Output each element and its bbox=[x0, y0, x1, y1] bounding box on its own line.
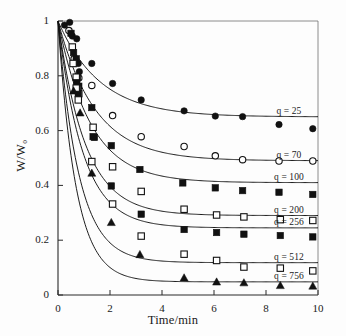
marker-open-square bbox=[213, 257, 219, 263]
x-tick-label: 10 bbox=[288, 302, 346, 314]
marker-open-circle bbox=[109, 112, 115, 118]
marker-filled-triangle bbox=[136, 250, 144, 257]
chart-plot-area bbox=[0, 0, 346, 336]
marker-open-square bbox=[213, 212, 219, 218]
marker-open-circle bbox=[212, 153, 218, 159]
marker-open-circle bbox=[138, 133, 144, 139]
marker-open-square bbox=[90, 124, 96, 130]
marker-filled-circle bbox=[89, 60, 95, 66]
marker-open-square bbox=[181, 251, 187, 257]
marker-filled-square bbox=[180, 180, 186, 186]
marker-open-square bbox=[109, 201, 115, 207]
x-tick-label: 6 bbox=[184, 302, 244, 314]
marker-filled-triangle bbox=[76, 109, 84, 116]
x-tick-label: 0 bbox=[28, 302, 88, 314]
marker-filled-circle bbox=[138, 97, 144, 103]
y-tick-label: 0.8 bbox=[0, 69, 49, 81]
marker-filled-triangle bbox=[309, 282, 317, 289]
marker-filled-circle bbox=[276, 121, 282, 127]
marker-filled-square bbox=[90, 133, 96, 139]
series-label-q-200: q = 200 bbox=[260, 205, 318, 215]
marker-filled-square bbox=[108, 183, 114, 189]
x-axis-title: Time/min bbox=[0, 313, 346, 328]
marker-filled-square bbox=[213, 229, 219, 235]
marker-open-square bbox=[241, 214, 247, 220]
marker-filled-square bbox=[68, 30, 74, 36]
marker-filled-circle bbox=[109, 80, 115, 86]
marker-open-square bbox=[70, 60, 76, 66]
y-tick-label: 0.6 bbox=[0, 124, 49, 136]
marker-open-circle bbox=[181, 143, 187, 149]
y-tick-label: 0.2 bbox=[0, 233, 49, 245]
marker-open-square bbox=[75, 97, 81, 103]
marker-open-circle bbox=[239, 156, 245, 162]
marker-open-square bbox=[138, 188, 144, 194]
marker-filled-square bbox=[310, 191, 316, 197]
marker-filled-square bbox=[181, 226, 187, 232]
marker-filled-circle bbox=[67, 19, 73, 25]
marker-filled-square bbox=[89, 104, 95, 110]
fit-curve-0 bbox=[58, 21, 318, 117]
series-label-q-256: q = 256 bbox=[260, 217, 318, 227]
marker-filled-circle bbox=[212, 113, 218, 119]
marker-open-square bbox=[109, 164, 115, 170]
marker-open-circle bbox=[89, 82, 95, 88]
marker-open-square bbox=[138, 233, 144, 239]
marker-filled-triangle bbox=[107, 218, 115, 225]
marker-filled-circle bbox=[181, 108, 187, 114]
y-tick-label: 0 bbox=[0, 288, 49, 300]
marker-filled-square bbox=[277, 232, 283, 238]
x-tick-label: 8 bbox=[236, 302, 296, 314]
series-label-q-512: q = 512 bbox=[260, 252, 318, 262]
series-label-q-25: q = 25 bbox=[260, 106, 318, 116]
y-tick-label: 1 bbox=[0, 14, 49, 26]
marker-filled-square bbox=[138, 211, 144, 217]
series-label-q-756: q = 756 bbox=[260, 271, 318, 281]
fit-curve-3 bbox=[58, 21, 318, 216]
marker-filled-circle bbox=[239, 113, 245, 119]
marker-open-square bbox=[181, 206, 187, 212]
marker-open-square bbox=[241, 264, 247, 270]
x-tick-label: 4 bbox=[132, 302, 192, 314]
x-tick-label: 2 bbox=[80, 302, 140, 314]
marker-filled-circle bbox=[310, 125, 316, 131]
series-label-q-100: q = 100 bbox=[260, 172, 318, 182]
figure-container: Time/min W/W₀ 024681000.20.40.60.81 q = … bbox=[0, 0, 346, 336]
y-tick-label: 0.4 bbox=[0, 178, 49, 190]
marker-filled-square bbox=[108, 142, 114, 148]
marker-filled-square bbox=[137, 166, 143, 172]
series-label-q-70: q = 70 bbox=[260, 150, 318, 160]
marker-filled-square bbox=[310, 234, 316, 240]
marker-filled-square bbox=[241, 231, 247, 237]
marker-filled-square bbox=[70, 49, 76, 55]
marker-filled-triangle bbox=[276, 281, 284, 288]
marker-filled-triangle bbox=[88, 169, 96, 176]
marker-filled-triangle bbox=[180, 274, 188, 281]
marker-filled-square bbox=[212, 185, 218, 191]
marker-open-square bbox=[89, 158, 95, 164]
marker-filled-square bbox=[239, 187, 245, 193]
marker-filled-square bbox=[276, 189, 282, 195]
